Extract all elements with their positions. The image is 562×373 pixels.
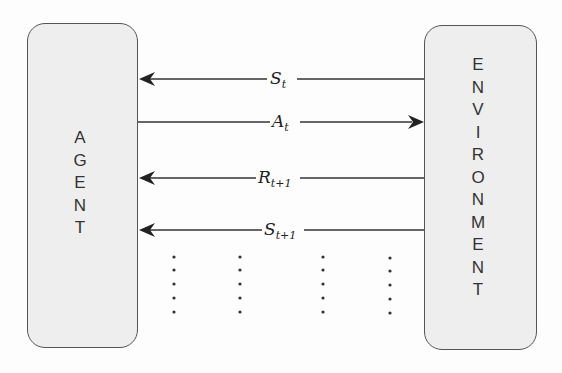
continuation-dots	[172, 255, 391, 314]
agent-environment-diagram: A G E N T E N V I R O N M E N T	[0, 0, 562, 373]
arrows-layer: St At Rt+1 St+1	[0, 0, 562, 373]
